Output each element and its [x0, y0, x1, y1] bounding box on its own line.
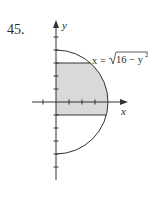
- equation-lhs: x =: [92, 55, 106, 66]
- shaded-region: [56, 63, 108, 115]
- equation-exponent: 2: [145, 51, 148, 58]
- y-axis-arrow-icon: [53, 20, 59, 28]
- equation-rhs: 16 − y: [116, 54, 144, 65]
- y-axis-label: y: [61, 19, 67, 31]
- curve-equation-label: x = 16 − y 2: [92, 51, 148, 66]
- region-diagram: y x x = 16 − y 2: [0, 0, 153, 197]
- x-axis-label: x: [120, 105, 126, 117]
